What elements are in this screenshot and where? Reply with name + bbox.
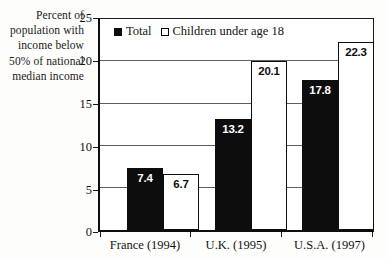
bar-value-france-total: 7.4	[128, 172, 162, 184]
category-label-france: France (1994)	[99, 238, 191, 252]
gridline-20	[100, 60, 373, 61]
y-axis-title-line-5: median income	[0, 69, 84, 84]
y-tick-mark-0	[93, 232, 98, 233]
chart-figure: Percent of population with income below …	[0, 0, 388, 259]
legend-swatch-filled-icon	[114, 28, 122, 36]
x-sep-tick-end	[372, 232, 373, 237]
y-axis-title-line-3: income below	[0, 38, 84, 53]
bar-uk-total: 13.2	[215, 119, 251, 230]
x-sep-tick-2	[281, 232, 282, 237]
y-tick-label-0: 0	[62, 226, 92, 239]
y-axis-title-line-2: population with	[0, 23, 84, 38]
y-tick-label-20: 20	[62, 55, 92, 68]
legend-entry-children: Children under age 18	[161, 25, 284, 38]
bar-france-total: 7.4	[127, 168, 163, 230]
bar-usa-total: 17.8	[302, 80, 338, 230]
plot-inner: 7.4 6.7 13.2 20.1 17.8 22.3	[100, 19, 373, 230]
bar-usa-children: 22.3	[338, 42, 374, 230]
legend-entry-total: Total	[114, 25, 152, 38]
x-sep-tick-1	[190, 232, 191, 237]
chart-legend: Total Children under age 18	[114, 25, 293, 38]
legend-label-total: Total	[126, 25, 152, 38]
bar-value-usa-children: 22.3	[339, 46, 373, 58]
category-label-usa: U.S.A. (1997)	[281, 238, 378, 252]
bar-value-usa-total: 17.8	[303, 84, 337, 96]
bar-value-uk-total: 13.2	[216, 123, 250, 135]
bar-value-france-children: 6.7	[164, 178, 198, 190]
y-tick-label-5: 5	[62, 184, 92, 197]
x-sep-tick-start	[100, 232, 101, 237]
bar-value-uk-children: 20.1	[252, 65, 286, 77]
legend-label-children: Children under age 18	[173, 25, 284, 38]
legend-swatch-hollow-icon	[161, 28, 169, 36]
bar-france-children: 6.7	[163, 174, 199, 231]
y-tick-label-10: 10	[62, 141, 92, 154]
plot-area: 7.4 6.7 13.2 20.1 17.8 22.3	[98, 18, 374, 232]
bar-uk-children: 20.1	[251, 61, 287, 231]
category-label-uk: U.K. (1995)	[191, 238, 281, 252]
y-tick-label-15: 15	[62, 98, 92, 111]
y-tick-label-25: 25	[62, 12, 92, 25]
